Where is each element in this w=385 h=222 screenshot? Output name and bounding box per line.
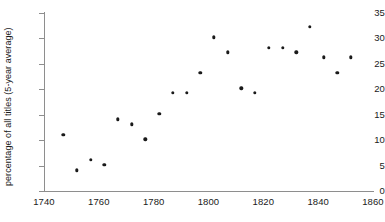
data-point <box>322 56 325 59</box>
data-point <box>295 50 298 53</box>
data-point <box>267 46 270 49</box>
data-point <box>144 137 147 140</box>
x-axis-line <box>44 191 374 192</box>
data-point <box>281 46 284 49</box>
data-point <box>240 87 243 90</box>
data-point <box>336 71 339 74</box>
data-point <box>75 168 78 171</box>
data-point <box>171 91 174 94</box>
x-tick-label: 1860 <box>351 196 385 207</box>
data-point <box>308 25 311 28</box>
x-tick-label: 1780 <box>132 196 176 207</box>
data-point <box>253 91 256 94</box>
x-tick-label: 1840 <box>296 196 340 207</box>
x-tick-label: 1760 <box>77 196 121 207</box>
scatter-chart: percentage of all titles (5-year average… <box>0 0 385 222</box>
data-point <box>103 163 106 166</box>
x-tick-label: 1740 <box>22 196 66 207</box>
data-point <box>61 133 64 136</box>
data-point <box>212 36 215 39</box>
x-tick-label: 1820 <box>241 196 285 207</box>
plot-area <box>44 13 373 191</box>
data-point <box>89 158 92 161</box>
data-point <box>199 71 202 74</box>
data-point <box>157 112 160 115</box>
y-axis-title: percentage of all titles (5-year average… <box>2 8 14 186</box>
x-tick-label: 1800 <box>187 196 231 207</box>
data-point <box>226 50 229 53</box>
data-point <box>130 123 133 126</box>
data-point <box>185 91 188 94</box>
data-point <box>349 56 352 59</box>
data-point <box>116 118 119 121</box>
y-tick-mark <box>39 191 44 192</box>
